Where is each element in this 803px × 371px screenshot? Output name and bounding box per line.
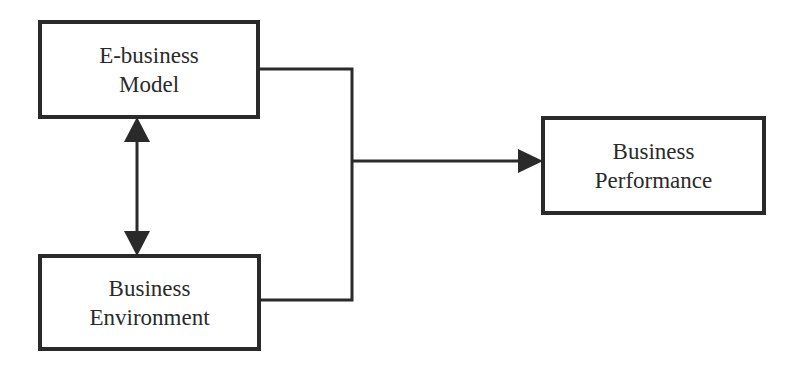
- arrowhead-down-icon: [124, 231, 150, 256]
- arrowhead-right-icon: [518, 149, 543, 173]
- node-label-line: Business: [613, 137, 695, 166]
- node-label-line: Business: [109, 274, 191, 303]
- node-label-line: Performance: [595, 166, 713, 195]
- node-label-line: E-business: [99, 41, 199, 70]
- node-label-line: Model: [119, 70, 179, 99]
- arrowhead-up-icon: [124, 117, 150, 142]
- diagram-canvas: E-business Model Business Environment Bu…: [0, 0, 803, 371]
- node-ebusiness-model: E-business Model: [38, 20, 260, 119]
- merge-connector-line: [258, 69, 352, 300]
- node-business-environment: Business Environment: [38, 254, 261, 351]
- node-business-performance: Business Performance: [541, 116, 766, 215]
- node-label-line: Environment: [89, 303, 209, 332]
